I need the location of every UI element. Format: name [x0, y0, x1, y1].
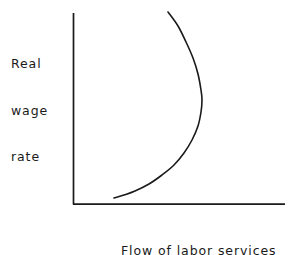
x-axis-label: Flow of labor services per unit of time.: [121, 212, 276, 255]
y-axis-label-line-1: Real: [11, 56, 48, 72]
y-axis-label: Real wage rate: [11, 25, 48, 196]
labor-supply-curve: [114, 12, 202, 198]
x-axis-label-line-1: Flow of labor services: [121, 243, 276, 255]
y-axis-label-line-3: rate: [11, 149, 48, 165]
y-axis-label-line-2: wage: [11, 103, 48, 119]
figure-canvas: Real wage rate Flow of labor services pe…: [0, 0, 296, 255]
